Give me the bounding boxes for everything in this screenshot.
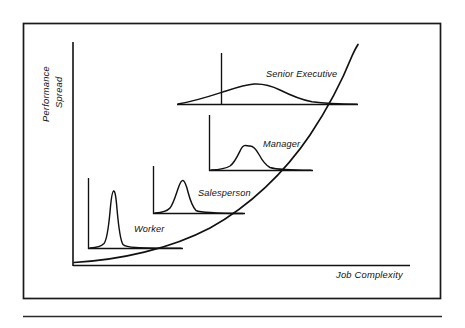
inset-manager: Manager: [209, 115, 313, 171]
x-axis-label: Job Complexity: [335, 269, 404, 280]
figure-container: Performance Spread Job Complexity Senior…: [0, 0, 465, 328]
worker-distribution-curve: [90, 191, 181, 248]
inset-senior-executive: Senior Executive: [177, 53, 358, 105]
salesperson-label: Salesperson: [198, 188, 251, 198]
y-axis-label-line2: Spread: [53, 76, 64, 108]
senior-executive-label: Senior Executive: [266, 69, 337, 79]
manager-distribution-curve: [211, 145, 311, 170]
worker-label: Worker: [134, 224, 165, 234]
figure-frame: [24, 24, 441, 299]
performance-spread-diagram: Performance Spread Job Complexity Senior…: [0, 0, 465, 328]
inset-salesperson: Salesperson: [153, 166, 251, 214]
manager-label: Manager: [263, 139, 301, 149]
main-axes: [73, 42, 410, 266]
y-axis-label-line1: Performance: [40, 66, 51, 122]
y-axis-label-group: Performance Spread: [40, 66, 64, 122]
